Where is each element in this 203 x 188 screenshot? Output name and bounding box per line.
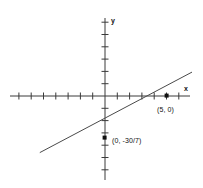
- plot-canvas: y x (5, 0) (0, -30/7): [0, 0, 203, 188]
- point-label-y-intercept: (0, -30/7): [112, 137, 141, 145]
- y-axis-label: y: [111, 17, 115, 25]
- x-axis-label: x: [184, 85, 188, 92]
- data-point-marker-y-intercept: [103, 136, 107, 140]
- coordinate-plane-line-graph: y x (5, 0) (0, -30/7): [0, 0, 203, 188]
- point-label-x-intercept: (5, 0): [157, 106, 174, 114]
- data-point-marker-x-intercept: [165, 94, 169, 98]
